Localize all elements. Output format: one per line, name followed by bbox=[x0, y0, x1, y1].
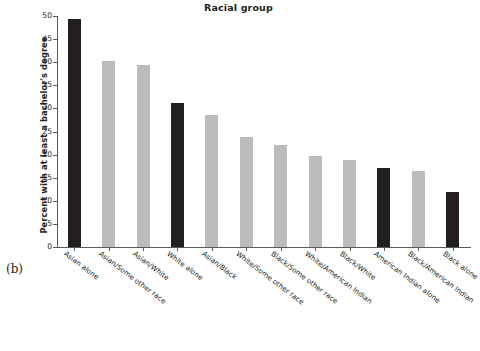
bar bbox=[446, 192, 459, 247]
x-axis-line bbox=[57, 247, 471, 248]
x-axis-labels: Asian aloneAsian/Some other raceAsian/Wh… bbox=[57, 250, 471, 351]
bar bbox=[240, 137, 253, 247]
x-tick-label: White/Some other race bbox=[235, 250, 306, 306]
y-tick-label: 10 bbox=[42, 197, 52, 205]
bar bbox=[102, 61, 115, 247]
bar bbox=[309, 156, 322, 247]
y-tick-label: 40 bbox=[42, 58, 52, 66]
x-tick-label: White alone bbox=[166, 250, 205, 282]
y-tick-mark bbox=[53, 224, 57, 225]
y-tick-label: 35 bbox=[42, 82, 52, 90]
y-tick-label: 45 bbox=[42, 35, 52, 43]
x-tick-label: Asian/Some other race bbox=[97, 250, 167, 305]
x-tick-label: Asian/Black bbox=[201, 250, 238, 281]
bar bbox=[343, 160, 356, 247]
y-tick-label: 15 bbox=[42, 174, 52, 182]
x-tick-label: Asian alone bbox=[63, 250, 101, 281]
y-tick-mark bbox=[53, 108, 57, 109]
y-tick-label: 20 bbox=[42, 151, 52, 159]
y-tick-mark bbox=[53, 132, 57, 133]
bar bbox=[377, 168, 390, 247]
panel-letter: (b) bbox=[6, 262, 23, 276]
y-tick-mark bbox=[53, 178, 57, 179]
bar bbox=[171, 103, 184, 247]
y-tick-label: 30 bbox=[42, 105, 52, 113]
bar bbox=[68, 19, 81, 247]
chart-title: Racial group bbox=[0, 2, 477, 13]
bar bbox=[137, 65, 150, 247]
plot-area: 05101520253035404550 bbox=[57, 16, 470, 247]
bar bbox=[205, 115, 218, 247]
y-tick-mark bbox=[53, 62, 57, 63]
y-tick-label: 5 bbox=[47, 220, 52, 228]
y-tick-mark bbox=[53, 85, 57, 86]
x-tick-label: Black/American Indian bbox=[407, 250, 476, 304]
y-tick-label: 50 bbox=[42, 12, 52, 20]
x-tick-label: Black/Some other race bbox=[269, 250, 339, 305]
bar bbox=[274, 145, 287, 247]
bar bbox=[412, 171, 425, 247]
y-tick-mark bbox=[53, 155, 57, 156]
y-tick-label: 25 bbox=[42, 128, 52, 136]
x-tick-label: American Indian alone bbox=[373, 250, 442, 304]
y-tick-label: 0 bbox=[47, 243, 52, 251]
y-tick-mark bbox=[53, 247, 57, 248]
y-tick-mark bbox=[53, 16, 57, 17]
y-tick-mark bbox=[53, 201, 57, 202]
y-tick-mark bbox=[53, 39, 57, 40]
